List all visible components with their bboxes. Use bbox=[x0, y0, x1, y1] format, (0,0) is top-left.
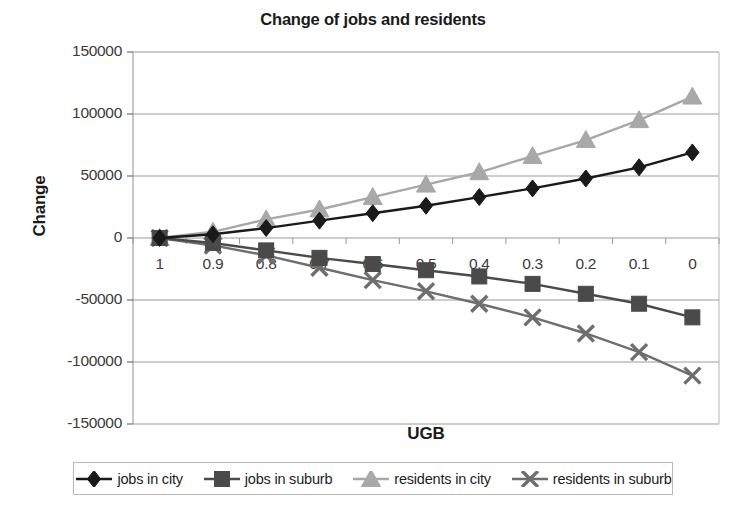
legend-item-label: jobs in suburb bbox=[245, 471, 332, 487]
legend-marker-cross-icon bbox=[510, 471, 550, 487]
x-axis-title: UGB bbox=[133, 424, 719, 444]
legend-marker-diamond-icon bbox=[74, 471, 114, 487]
series-residents-in-suburb bbox=[152, 230, 701, 384]
chart-container: Change of jobs and residents Change 1500… bbox=[0, 0, 746, 511]
legend-marker-square-icon bbox=[202, 471, 242, 487]
legend-item[interactable]: jobs in suburb bbox=[202, 471, 332, 487]
legend-item[interactable]: residents in suburb bbox=[510, 471, 672, 487]
chart-legend: jobs in cityjobs in suburbresidents in c… bbox=[73, 462, 673, 495]
series-residents-in-city bbox=[150, 87, 702, 245]
series-jobs-in-city bbox=[153, 144, 699, 247]
legend-item-label: residents in suburb bbox=[553, 471, 672, 487]
legend-item-label: residents in city bbox=[394, 471, 491, 487]
series-jobs-in-suburb bbox=[152, 231, 700, 325]
legend-item[interactable]: residents in city bbox=[351, 471, 491, 487]
legend-item[interactable]: jobs in city bbox=[74, 471, 182, 487]
legend-marker-triangle-icon bbox=[351, 471, 391, 487]
legend-item-label: jobs in city bbox=[117, 471, 182, 487]
